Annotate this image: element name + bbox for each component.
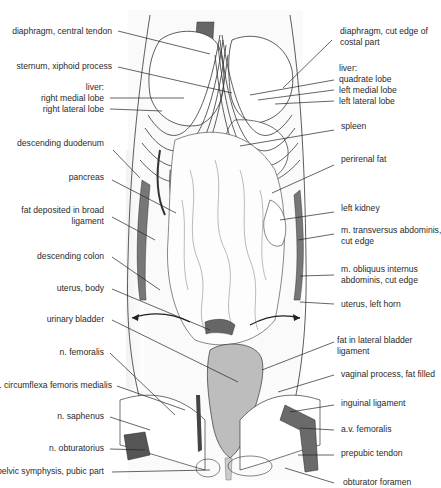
label-line: liver:	[41, 82, 104, 93]
label-line: obturator foramen	[343, 477, 411, 488]
label-n-obturatorius: n. obturatorius	[49, 443, 104, 454]
label-line: vaginal process, fat filled	[341, 369, 435, 380]
label-line: costal part	[340, 37, 428, 48]
label-line: m. obliquus internus	[341, 264, 418, 275]
label-line: quadrate lobe	[339, 74, 397, 85]
label-descending-colon: descending colon	[37, 251, 104, 262]
label-line: diaphragm, cut edge of	[340, 26, 428, 37]
label-line: right lateral lobe	[41, 104, 104, 115]
label-liver-left-lobes: liver: quadrate lobe left medial lobe le…	[339, 63, 397, 107]
label-line: fat in lateral bladder	[337, 335, 412, 346]
label-m-obliquus-internus: m. obliquus internus abdominis, cut edge	[341, 264, 418, 286]
label-line: inguinal ligament	[341, 398, 406, 409]
label-spleen: spleen	[341, 121, 366, 132]
label-line: descending colon	[37, 251, 104, 262]
label-line: sternum, xiphoid process	[16, 61, 112, 72]
label-line: n. femoralis	[60, 347, 104, 358]
label-line: diaphragm, central tendon	[12, 26, 112, 37]
label-line: ligament	[21, 216, 104, 227]
label-av-femoralis: a.v. femoralis	[341, 424, 391, 435]
label-line: cut edge	[341, 236, 441, 247]
label-line: pancreas	[69, 172, 104, 183]
label-line: a.v. femoralis	[341, 424, 391, 435]
label-uterus-body: uterus, body	[57, 283, 104, 294]
label-descending-duodenum: descending duodenum	[17, 138, 104, 149]
label-line: left medial lobe	[339, 85, 397, 96]
label-line: a. circumflexa femoris medialis	[0, 380, 112, 391]
label-vaginal-process: vaginal process, fat filled	[341, 369, 435, 380]
label-fat-lateral-bladder-ligament: fat in lateral bladder ligament	[337, 335, 412, 357]
label-diaphragm-cut-edge: diaphragm, cut edge of costal part	[340, 26, 428, 48]
label-liver-right-lobes: liver: right medial lobe right lateral l…	[41, 82, 104, 115]
label-line: left kidney	[341, 203, 380, 214]
label-perirenal-fat: perirenal fat	[341, 154, 386, 165]
label-line: pelvic symphysis, pubic part	[0, 466, 104, 477]
label-line: fat deposited in broad	[21, 205, 104, 216]
label-fat-broad-ligament: fat deposited in broad ligament	[21, 205, 104, 227]
label-line: n. obturatorius	[49, 443, 104, 454]
label-line: uterus, body	[57, 283, 104, 294]
label-pancreas: pancreas	[69, 172, 104, 183]
label-line: urinary bladder	[47, 314, 104, 325]
label-pelvic-symphysis: pelvic symphysis, pubic part	[0, 466, 104, 477]
label-left-kidney: left kidney	[341, 203, 380, 214]
label-n-saphenus: n. saphenus	[57, 411, 104, 422]
label-line: abdominis, cut edge	[341, 275, 418, 286]
label-uterus-left-horn: uterus, left horn	[341, 299, 401, 310]
label-line: perirenal fat	[341, 154, 386, 165]
label-sternum-xiphoid-process: sternum, xiphoid process	[16, 61, 112, 72]
label-prepubic-tendon: prepubic tendon	[341, 448, 403, 459]
label-diaphragm-central-tendon: diaphragm, central tendon	[12, 26, 112, 37]
label-a-circumflexa-femoris-medialis: a. circumflexa femoris medialis	[0, 380, 112, 391]
label-inguinal-ligament: inguinal ligament	[341, 398, 406, 409]
label-n-femoralis: n. femoralis	[60, 347, 104, 358]
label-line: liver:	[339, 63, 397, 74]
label-urinary-bladder: urinary bladder	[47, 314, 104, 325]
label-line: spleen	[341, 121, 366, 132]
label-line: n. saphenus	[57, 411, 104, 422]
label-line: prepubic tendon	[341, 448, 403, 459]
label-line: descending duodenum	[17, 138, 104, 149]
label-line: m. transversus abdominis,	[341, 225, 441, 236]
label-m-transversus-abdominis: m. transversus abdominis, cut edge	[341, 225, 441, 247]
label-obturator-foramen: obturator foramen	[343, 477, 411, 488]
label-line: right medial lobe	[41, 93, 104, 104]
label-line: ligament	[337, 346, 412, 357]
label-line: uterus, left horn	[341, 299, 401, 310]
label-line: left lateral lobe	[339, 96, 397, 107]
